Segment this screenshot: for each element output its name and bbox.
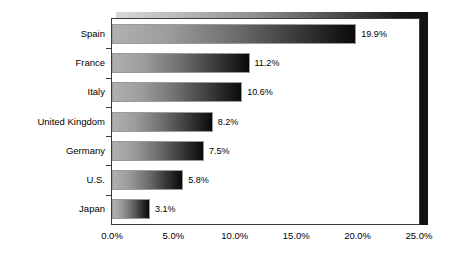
category-label-italy: Italy [0, 87, 105, 97]
category-tick [106, 136, 111, 137]
bar-spain[interactable] [112, 24, 356, 44]
bar-row: 10.6% [112, 82, 419, 102]
category-tick [106, 165, 111, 166]
x-tick-label-200: 20.0% [344, 231, 371, 241]
x-tick-label-250: 25.0% [406, 231, 433, 241]
bar-italy[interactable] [112, 82, 242, 102]
bar-row: 5.8% [112, 170, 419, 190]
category-label-japan: Japan [0, 204, 105, 214]
bar-row: 11.2% [112, 53, 419, 73]
chart-wall-right-shadow [420, 12, 428, 225]
bar-united-kingdom[interactable] [112, 112, 213, 132]
bar-row: 8.2% [112, 112, 419, 132]
bar-germany[interactable] [112, 141, 204, 161]
bar-japan[interactable] [112, 199, 150, 219]
bar-value-label: 3.1% [155, 205, 176, 214]
bar-value-label: 5.8% [188, 176, 209, 185]
bar-row: 7.5% [112, 141, 419, 161]
bar-row: 19.9% [112, 24, 419, 44]
category-tick [106, 48, 111, 49]
x-tick-label-100: 10.0% [221, 231, 248, 241]
category-label-u-s: U.S. [0, 175, 105, 185]
bars-container: 19.9%11.2%10.6%8.2%7.5%5.8%3.1% [112, 19, 419, 224]
bar-value-label: 7.5% [209, 146, 230, 155]
bar-value-label: 10.6% [247, 88, 273, 97]
bar-value-label: 11.2% [255, 58, 280, 67]
category-axis-labels: SpainFranceItalyUnited KingdomGermanyU.S… [0, 19, 105, 224]
bar-u-s[interactable] [112, 170, 183, 190]
category-label-spain: Spain [0, 29, 105, 39]
bar-value-label: 8.2% [218, 117, 239, 126]
category-tick [106, 195, 111, 196]
x-tick-label-00: 0.0% [101, 231, 123, 241]
category-tick [106, 107, 111, 108]
bar-france[interactable] [112, 53, 250, 73]
bar-value-label: 19.9% [361, 29, 387, 38]
bar-chart: SpainFranceItalyUnited KingdomGermanyU.S… [0, 0, 454, 261]
bar-row: 3.1% [112, 199, 419, 219]
x-tick-label-50: 5.0% [163, 231, 185, 241]
category-label-germany: Germany [0, 146, 105, 156]
x-tick-label-150: 15.0% [283, 231, 310, 241]
category-label-france: France [0, 58, 105, 68]
category-label-united-kingdom: United Kingdom [0, 117, 105, 127]
category-tick [106, 78, 111, 79]
